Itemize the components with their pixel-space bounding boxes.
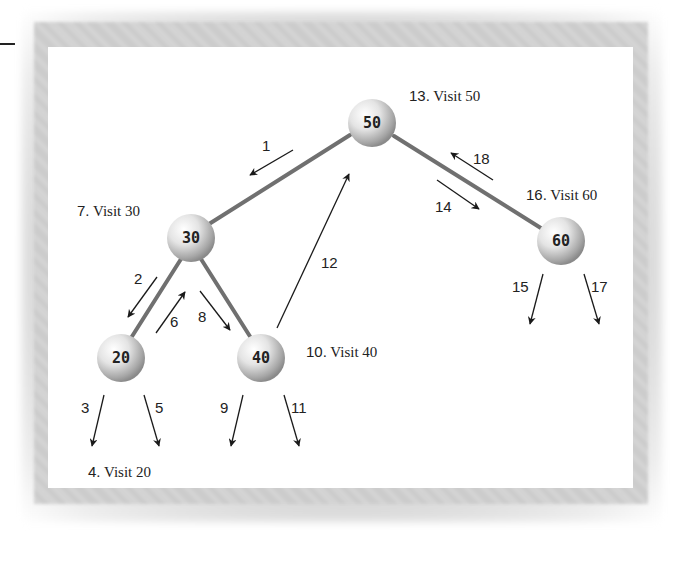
- step-number: 15: [512, 278, 529, 295]
- tree-edge-50-60: [394, 136, 544, 230]
- step-number: 3: [81, 399, 89, 416]
- step-arrow-15: 15: [512, 274, 543, 324]
- arrow-icon: [250, 150, 293, 175]
- tree-node-50: 50: [348, 99, 396, 147]
- tree-edge-50-30: [209, 135, 350, 224]
- step-number: 8: [198, 308, 206, 325]
- visit-order: 16.: [526, 186, 547, 203]
- step-number: 18: [473, 150, 490, 167]
- step-arrow-6: 6: [156, 292, 185, 333]
- visit-label: 16. Visit 60: [526, 186, 597, 203]
- node-value: 30: [182, 229, 200, 247]
- step-arrow-11: 11: [284, 395, 307, 446]
- visit-order: 7.: [77, 202, 90, 219]
- tree-node-40: 40: [237, 334, 285, 382]
- step-arrow-5: 5: [144, 395, 163, 446]
- visit-label: 4. Visit 20: [88, 463, 151, 480]
- node-value: 50: [363, 114, 381, 132]
- visit-order: 13.: [409, 87, 430, 104]
- step-arrow-3: 3: [81, 395, 104, 446]
- visit-order: 10.: [306, 343, 327, 360]
- visit-text: Visit 30: [90, 203, 141, 219]
- visit-label: 7. Visit 30: [77, 202, 140, 219]
- visit-label: 13. Visit 50: [409, 87, 480, 104]
- step-number: 14: [435, 198, 452, 215]
- node-value: 40: [252, 349, 270, 367]
- step-number: 9: [220, 399, 228, 416]
- step-arrow-1: 1: [250, 137, 293, 175]
- step-number: 1: [262, 137, 270, 154]
- visit-label: 10. Visit 40: [306, 343, 377, 360]
- step-number: 2: [134, 270, 142, 287]
- step-arrow-9: 9: [220, 395, 243, 446]
- tree-edge-30-40: [201, 259, 251, 338]
- step-number: 5: [155, 399, 163, 416]
- step-arrow-2: 2: [128, 270, 157, 317]
- binary-tree-diagram: 1235689111214151718 5030602040 4. Visit …: [0, 0, 673, 563]
- node-value: 60: [552, 232, 570, 250]
- step-number: 11: [291, 399, 307, 416]
- visit-text: Visit 50: [430, 88, 481, 104]
- tree-node-30: 30: [167, 214, 215, 262]
- visit-text: Visit 20: [101, 464, 152, 480]
- tree-node-60: 60: [537, 217, 585, 265]
- arrow-icon: [277, 174, 349, 328]
- tree-node-20: 20: [97, 334, 145, 382]
- step-number: 6: [170, 313, 178, 330]
- step-arrow-12: 12: [277, 174, 349, 328]
- step-number: 12: [321, 254, 338, 271]
- arrow-icon: [92, 395, 104, 446]
- figure: 1235689111214151718 5030602040 4. Visit …: [0, 0, 673, 563]
- visit-text: Visit 60: [547, 187, 598, 203]
- arrow-icon: [231, 395, 243, 446]
- node-value: 20: [112, 349, 130, 367]
- arrow-icon: [530, 274, 543, 324]
- arrow-icon: [128, 277, 157, 317]
- visit-text: Visit 40: [327, 344, 378, 360]
- step-arrow-17: 17: [584, 274, 608, 324]
- visit-order: 4.: [88, 463, 101, 480]
- step-number: 17: [591, 278, 608, 295]
